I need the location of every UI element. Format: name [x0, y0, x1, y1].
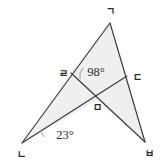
geometry-figure: ㄱ ㄴ ㄷ ㄹ ㅁ ㅂ 98° 23° — [0, 0, 162, 167]
vertex-label-b: ㄴ — [17, 149, 26, 160]
angle-arc-at-b — [40, 131, 44, 137]
vertex-label-e: ㅁ — [93, 102, 102, 113]
angle-value-98: 98° — [87, 65, 105, 79]
angle-value-23: 23° — [56, 128, 74, 142]
vertex-label-c: ㄷ — [133, 72, 142, 83]
vertex-label-f: ㅂ — [145, 148, 154, 159]
geometry-canvas: ㄱ ㄴ ㄷ ㄹ ㅁ ㅂ 98° 23° — [0, 0, 162, 167]
vertex-label-d: ㄹ — [59, 68, 68, 79]
vertex-label-a: ㄱ — [106, 6, 115, 17]
